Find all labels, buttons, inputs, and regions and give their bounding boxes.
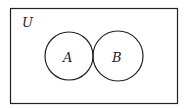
set-a-label: A [62,50,72,65]
universe-label: U [22,15,34,30]
universe-rectangle [11,9,178,104]
set-b-label: B [111,50,122,65]
venn-diagram: U A B [0,0,194,109]
